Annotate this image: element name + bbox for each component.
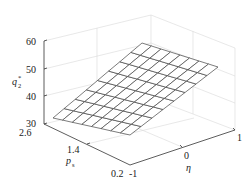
z-tick-50: 50 [26, 64, 36, 75]
x-tick-0: 0 [184, 150, 189, 161]
y-tick-1.4: 1.4 [67, 144, 80, 155]
x-axis-line [130, 130, 235, 165]
svg-text:η: η [186, 162, 191, 173]
svg-text:p: p [65, 155, 71, 166]
svg-text:q: q [12, 76, 17, 87]
y-tick-2.6: 2.6 [19, 127, 32, 138]
x-tick-neg1: -1 [129, 168, 137, 179]
x-tick-1: 1 [237, 132, 242, 143]
y-tick-0.2: 0.2 [111, 168, 124, 179]
z-tick-60: 60 [26, 36, 36, 47]
x-axis-label: η [186, 162, 191, 173]
surface-plot: 60 50 40 30 2.6 1.4 0.2 -1 0 1 q * 2 p s… [0, 0, 250, 185]
z-tick-labels: 60 50 40 30 [26, 36, 36, 129]
y-axis-label: p s [65, 155, 75, 168]
svg-text:s: s [72, 161, 75, 168]
svg-text:2: 2 [18, 82, 21, 89]
z-tick-40: 40 [26, 91, 36, 102]
z-axis-label: q * 2 [12, 74, 21, 89]
svg-text:*: * [18, 74, 21, 81]
y-tick-labels: 2.6 1.4 0.2 [19, 127, 124, 179]
